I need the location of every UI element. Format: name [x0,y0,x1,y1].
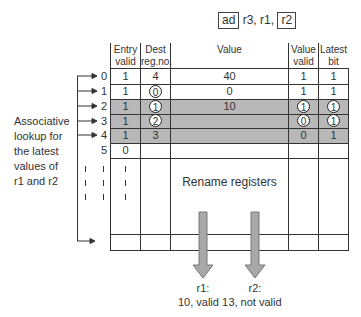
dest-reg-cell: 4 [141,69,170,84]
value-cell: 40 [171,69,288,84]
entry-valid-cell: 1 [111,128,140,143]
r2-label: r2: [215,281,295,295]
rename-registers-label: Rename registers [171,175,288,190]
r2-result: 3, not valid [215,295,295,309]
latest-bit-cell: 1 [319,84,348,99]
circled-value: 1 [297,100,310,113]
circled-value: 0 [149,85,162,98]
value-cell: 0 [171,84,288,99]
latest-bit-cell: 1 [319,100,348,115]
dest-reg-cell: 1 [141,100,170,115]
entry-valid-cell: 1 [111,69,140,84]
dest-reg-cell: 3 [141,128,170,143]
r2-output: r2: 3, not valid [215,281,295,309]
value-valid-cell: 1 [289,69,318,84]
value-valid-cell: 1 [289,100,318,115]
entry-valid-cell: 1 [111,114,140,129]
dest-reg-cell: 2 [141,114,170,129]
circled-value: 1 [327,100,340,113]
circled-value: 1 [327,114,340,127]
circled-value: 0 [297,114,310,127]
entry-valid-cell: 1 [111,99,140,114]
circled-value: 2 [149,114,162,127]
circled-value: 1 [149,100,162,113]
entry-valid-cell: 0 [111,143,140,158]
value-cell: 10 [171,99,288,114]
dest-reg-cell: 0 [141,85,170,100]
value-valid-cell: 1 [289,84,318,99]
lookup-arrows [0,0,361,317]
value-valid-cell: 0 [289,128,318,143]
value-valid-cell: 0 [289,114,318,129]
latest-bit-cell: 1 [319,114,348,129]
latest-bit-cell: 1 [319,69,348,84]
latest-bit-cell: 1 [319,128,348,143]
entry-valid-cell: 1 [111,84,140,99]
